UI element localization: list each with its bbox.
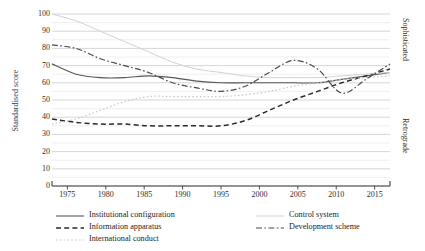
chart-legend: Institutional configurationInformation a… [56,210,416,250]
legend-swatch-icon [56,235,84,244]
x-tick-label: 1995 [201,190,241,199]
series-line [52,14,390,78]
x-tick-label: 1975 [47,190,87,199]
legend-label: Control system [289,210,339,220]
legend-swatch-icon [256,211,284,220]
legend-item[interactable]: Information apparatus [56,222,162,232]
chart-container: Standardised score 010203040506070809010… [0,0,425,251]
legend-item[interactable]: International conduct [56,234,159,244]
legend-item[interactable]: Control system [256,210,339,220]
series-line [52,45,390,93]
x-tick-label: 2000 [239,190,279,199]
legend-label: Institutional configuration [89,210,175,220]
x-tick-label: 2005 [278,190,318,199]
x-tick-label: 1980 [86,190,126,199]
legend-swatch-icon [256,223,284,232]
x-tick-label: 1990 [163,190,203,199]
x-tick-label: 1985 [124,190,164,199]
legend-label: Information apparatus [89,222,162,232]
legend-item[interactable]: Institutional configuration [56,210,175,220]
legend-item[interactable]: Development scheme [256,222,360,232]
legend-label: Development scheme [289,222,360,232]
x-tick-label: 2010 [316,190,356,199]
legend-swatch-icon [56,211,84,220]
x-tick-label: 2015 [355,190,395,199]
legend-swatch-icon [56,223,84,232]
legend-label: International conduct [89,234,159,244]
